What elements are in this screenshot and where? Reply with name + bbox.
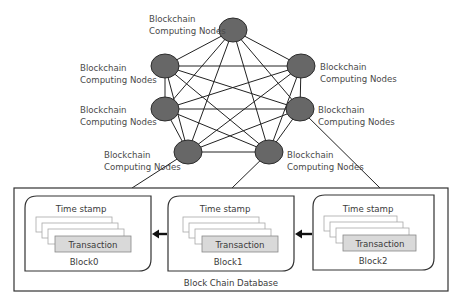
block-0[interactable]: Time stamp Transaction Block0 [25,196,151,271]
node-lower-right[interactable] [255,140,283,164]
node-upper-right[interactable] [287,54,315,78]
block-1[interactable]: Time stamp Transaction Block1 [168,196,294,271]
block-0-name: Block0 [70,257,99,267]
block-2-timestamp-label: Time stamp [342,204,394,214]
node-label-mid-left: Blockchain Computing Nodes [80,105,157,127]
block-2[interactable]: Time stamp Transaction Block2 [313,195,434,270]
node-label-mid-right: Blockchain Computing Nodes [318,105,395,127]
block-0-transaction-label: Transaction [67,240,117,250]
block-1-timestamp-label: Time stamp [199,204,251,214]
block-2-transaction-label: Transaction [354,239,404,249]
node-lower-left[interactable] [174,140,202,164]
block-1-name: Block1 [214,257,243,267]
blockchain-diagram: Blockchain Computing Nodes Blockchain Co… [0,0,464,305]
computing-nodes [151,18,315,164]
database-title: Block Chain Database [184,278,278,288]
block-2-name: Block2 [359,256,388,266]
node-mid-right[interactable] [286,97,314,121]
node-label-upper-left: Blockchain Computing Nodes [80,63,157,85]
node-label-top: Blockchain Computing Nodes [149,14,226,36]
block-1-transaction-label: Transaction [214,240,264,250]
node-label-lower-left: Blockchain Computing Nodes [104,150,181,172]
block-0-timestamp-label: Time stamp [55,204,107,214]
node-label-upper-right: Blockchain Computing Nodes [320,62,397,84]
